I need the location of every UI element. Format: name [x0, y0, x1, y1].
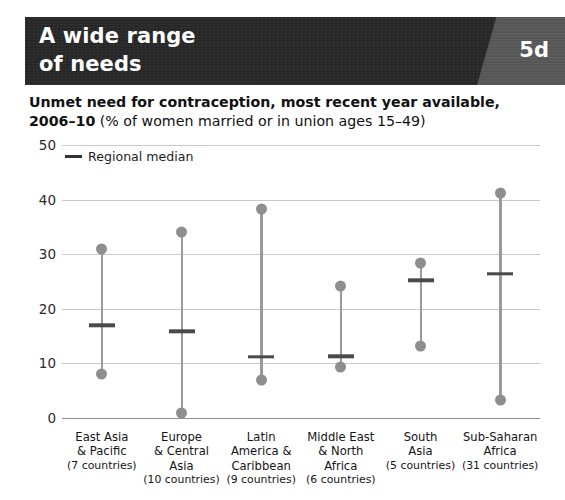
min-dot[interactable]: [176, 407, 187, 418]
y-tick-label-20: 20: [26, 301, 56, 317]
y-axis-tick-labels: 01020304050: [24, 145, 56, 418]
range-chart: 01020304050 Regional median East Asia& P…: [0, 0, 565, 500]
max-dot[interactable]: [415, 258, 426, 269]
x-label-line: Europe: [136, 430, 228, 444]
x-label-4: Middle East& NorthAfrica(6 countries): [295, 430, 387, 488]
min-dot[interactable]: [96, 369, 107, 380]
range-line: [101, 249, 104, 375]
max-dot[interactable]: [335, 281, 346, 292]
x-label-line: Middle East: [295, 430, 387, 444]
median-marker[interactable]: [328, 355, 354, 358]
x-label-country-count: (10 countries): [136, 473, 228, 487]
median-line-swatch-icon: [65, 155, 82, 158]
x-label-2: Europe& CentralAsia(10 countries): [136, 430, 228, 488]
median-marker[interactable]: [487, 272, 513, 275]
x-label-country-count: (31 countries): [454, 459, 546, 473]
min-dot[interactable]: [415, 340, 426, 351]
max-dot[interactable]: [96, 243, 107, 254]
x-label-line: & Pacific: [56, 444, 148, 458]
gridline-20: [62, 309, 540, 310]
max-dot[interactable]: [256, 204, 267, 215]
x-label-country-count: (6 countries): [295, 473, 387, 487]
x-label-line: Africa: [454, 444, 546, 458]
gridline-50: [62, 145, 540, 146]
x-label-line: Sub-Saharan: [454, 430, 546, 444]
y-tick-label-40: 40: [26, 192, 56, 208]
gridline-40: [62, 200, 540, 201]
x-label-line: South: [375, 430, 467, 444]
x-label-line: Latin: [215, 430, 307, 444]
x-label-line: Asia: [375, 444, 467, 458]
x-label-country-count: (9 countries): [215, 473, 307, 487]
x-label-line: America &: [215, 444, 307, 458]
x-label-line: Africa: [295, 459, 387, 473]
x-label-3: LatinAmerica &Caribbean(9 countries): [215, 430, 307, 488]
min-dot[interactable]: [495, 394, 506, 405]
y-tick-label-10: 10: [26, 355, 56, 371]
gridline-0: [62, 418, 540, 419]
x-axis-category-labels: East Asia& Pacific(7 countries)Europe& C…: [62, 424, 540, 498]
min-dot[interactable]: [335, 362, 346, 373]
plot-area: [62, 145, 540, 418]
x-label-5: SouthAsia(5 countries): [375, 430, 467, 473]
median-marker[interactable]: [89, 323, 115, 326]
y-tick-label-30: 30: [26, 246, 56, 262]
x-label-6: Sub-SaharanAfrica(31 countries): [454, 430, 546, 473]
median-marker[interactable]: [169, 329, 195, 332]
y-tick-label-50: 50: [26, 137, 56, 153]
max-dot[interactable]: [176, 227, 187, 238]
x-label-country-count: (7 countries): [56, 459, 148, 473]
max-dot[interactable]: [495, 188, 506, 199]
x-label-line: & North: [295, 444, 387, 458]
legend-label-median: Regional median: [88, 149, 194, 164]
range-line: [181, 232, 184, 412]
min-dot[interactable]: [256, 374, 267, 385]
y-tick-label-0: 0: [26, 410, 56, 426]
range-line: [420, 263, 423, 345]
chart-legend: Regional median: [65, 149, 194, 164]
x-label-line: & Central: [136, 444, 228, 458]
x-label-line: Asia: [136, 459, 228, 473]
x-label-1: East Asia& Pacific(7 countries): [56, 430, 148, 473]
x-label-country-count: (5 countries): [375, 459, 467, 473]
median-marker[interactable]: [408, 279, 434, 282]
x-label-line: Caribbean: [215, 459, 307, 473]
median-marker[interactable]: [248, 355, 274, 358]
x-label-line: East Asia: [56, 430, 148, 444]
gridline-30: [62, 254, 540, 255]
gridline-10: [62, 363, 540, 364]
range-line: [499, 193, 502, 400]
